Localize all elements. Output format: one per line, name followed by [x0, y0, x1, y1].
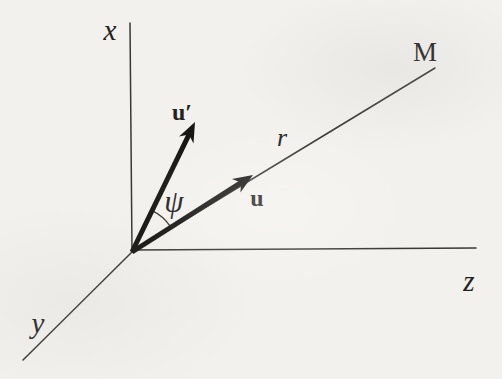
diagram-canvas: x y z M r u u′ ψ	[0, 0, 502, 379]
u-prime-vector-label: u′	[172, 99, 192, 125]
x-axis-label: x	[103, 14, 117, 46]
point-m-label: M	[413, 37, 437, 67]
vector-diagram-figure: x y z M r u u′ ψ	[0, 0, 502, 379]
r-line-label: r	[277, 123, 288, 152]
z-axis-label: z	[462, 265, 474, 297]
y-axis-line	[23, 252, 132, 360]
x-axis-line	[130, 23, 132, 252]
y-axis-label: y	[29, 307, 45, 339]
z-axis-line	[132, 248, 476, 250]
u-vector-label: u	[250, 185, 263, 211]
psi-angle-label: ψ	[164, 184, 184, 219]
